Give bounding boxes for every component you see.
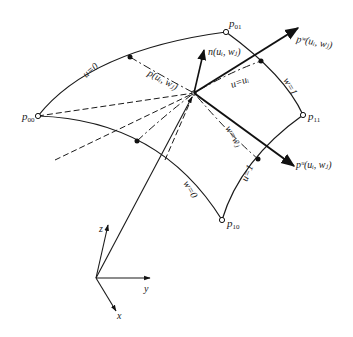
label-u1: u=1 [239,163,255,183]
x-axis [96,278,116,311]
vector-labels: p(uᵢ, wⱼ) n(uᵢ, wⱼ) pʷ(uᵢ, wⱼ) pᵘ(uᵢ, wⱼ… [145,33,334,171]
dash-line-3 [165,93,194,160]
coordinate-axes: z y x [96,223,150,321]
dash-line-2 [55,93,194,160]
x-axis-label: x [116,310,122,321]
corner-p10 [219,217,224,222]
y-axis-label: y [143,283,149,294]
corner-p01 [223,29,228,34]
surface-patch-diagram: z y x p00 p01 p11 p10 p(uᵢ, wⱼ) n(uᵢ, wⱼ… [0,0,353,337]
label-w0: w=0 [181,179,200,200]
z-axis-label: z [98,223,103,234]
dot-u1-edge [256,157,261,162]
position-vector [38,93,194,278]
label-p11: p11 [307,110,321,124]
edge-w0 [38,116,222,220]
corner-points [35,29,305,222]
label-tangent-u: pᵘ(uᵢ, wⱼ) [295,159,332,171]
dot-w1-edge [259,59,264,64]
label-point: p(uᵢ, wⱼ) [145,67,181,94]
label-tangent-w: pʷ(uᵢ, wⱼ) [294,33,334,51]
corner-p11 [300,112,305,117]
label-ui: u=uᵢ [229,73,250,90]
tangent-u-vector [194,93,294,166]
corner-labels: p00 p01 p11 p10 [21,17,321,231]
label-p00: p00 [21,110,35,124]
label-normal: n(uᵢ, wⱼ) [208,46,241,58]
position-vector-line [96,97,192,278]
dot-u0-edge [135,139,140,144]
edge-w1 [226,32,303,115]
label-p01: p01 [228,17,242,31]
label-p10: p10 [226,217,240,231]
dot-w0-edge [128,55,133,60]
corner-p00 [35,113,40,118]
label-w1: w=1 [281,76,300,97]
